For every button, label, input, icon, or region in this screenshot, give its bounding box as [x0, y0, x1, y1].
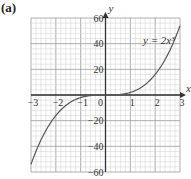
x-tick-label: 3 — [180, 97, 185, 108]
y-tick-label: −40 — [88, 141, 104, 152]
x-tick-label: 1 — [130, 97, 135, 108]
x-tick-label: 2 — [155, 97, 160, 108]
y-tick-label: 40 — [94, 38, 104, 49]
x-tick-label: −1 — [77, 97, 88, 108]
x-tick-label: 0 — [98, 97, 103, 108]
x-tick-label: −3 — [28, 97, 39, 108]
y-axis-label: y — [108, 2, 114, 14]
y-tick-label: 20 — [94, 64, 104, 75]
cubic-function-chart: −3−2−10123−60−40−20204060xyy = 2x³ — [0, 0, 191, 179]
x-tick-label: −2 — [53, 97, 64, 108]
y-tick-label: −20 — [88, 115, 104, 126]
y-tick-label: −60 — [88, 167, 104, 178]
curve-annotation: y = 2x³ — [142, 34, 175, 46]
x-axis-label: x — [185, 82, 191, 94]
y-tick-label: 60 — [94, 13, 104, 24]
